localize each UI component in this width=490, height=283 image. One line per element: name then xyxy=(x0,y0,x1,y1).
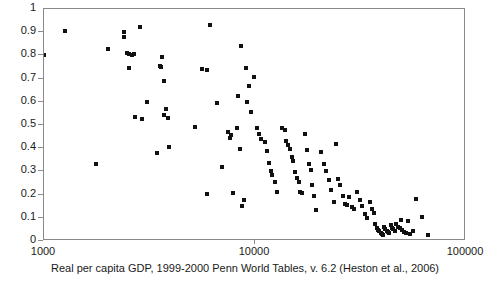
data-point xyxy=(414,197,418,201)
data-point xyxy=(44,53,46,57)
data-point xyxy=(322,162,326,166)
data-point xyxy=(252,75,256,79)
data-point xyxy=(387,231,391,235)
data-point xyxy=(133,115,137,119)
data-point xyxy=(155,151,159,155)
data-point xyxy=(297,180,301,184)
data-point xyxy=(312,194,316,198)
data-point xyxy=(63,29,67,33)
y-tick-label: 0.2 xyxy=(21,188,36,199)
data-point xyxy=(345,203,349,207)
y-tick-label: 0.1 xyxy=(21,211,36,222)
data-point xyxy=(300,191,304,195)
data-point xyxy=(200,67,204,71)
data-point xyxy=(159,65,163,69)
x-axis: 100010000100000 xyxy=(0,242,490,262)
data-point xyxy=(329,188,333,192)
data-point xyxy=(426,233,430,237)
y-tick-label: 0.3 xyxy=(21,164,36,175)
data-point xyxy=(238,147,242,151)
data-point xyxy=(249,110,253,114)
y-tick-label: 0.6 xyxy=(21,95,36,106)
data-point xyxy=(341,194,345,198)
data-point xyxy=(332,200,336,204)
data-point xyxy=(309,168,313,172)
data-point xyxy=(236,94,240,98)
y-axis: 00.10.20.30.40.50.60.70.80.91 xyxy=(0,0,43,248)
scatter-chart-figure: 00.10.20.30.40.50.60.70.80.91 1000100001… xyxy=(0,0,490,283)
y-tick-label: 0.8 xyxy=(21,48,36,59)
plot-frame xyxy=(43,8,465,240)
data-point xyxy=(208,23,212,27)
data-point xyxy=(420,215,424,219)
data-point xyxy=(370,207,374,211)
y-tick-mark xyxy=(38,240,43,241)
data-point xyxy=(132,52,136,56)
data-point xyxy=(275,190,279,194)
data-point xyxy=(240,204,244,208)
data-point xyxy=(399,218,403,222)
data-point xyxy=(270,173,274,177)
data-point xyxy=(122,30,126,34)
data-point xyxy=(215,101,219,105)
data-point xyxy=(160,55,164,59)
y-tick-label: 0.4 xyxy=(21,141,36,152)
data-point xyxy=(283,128,287,132)
y-tick-label: 0.5 xyxy=(21,118,36,129)
data-point xyxy=(273,180,277,184)
data-point xyxy=(239,44,243,48)
x-tick-label: 10000 xyxy=(239,246,270,257)
data-point xyxy=(263,140,267,144)
data-point xyxy=(324,169,328,173)
data-point xyxy=(167,145,171,149)
data-point xyxy=(127,66,131,70)
data-point xyxy=(307,162,311,166)
data-point xyxy=(242,198,246,202)
data-point xyxy=(288,147,292,151)
data-point xyxy=(358,198,362,202)
y-tick-label: 1 xyxy=(30,2,36,13)
data-point xyxy=(257,132,261,136)
data-point xyxy=(231,191,235,195)
data-point xyxy=(205,192,209,196)
data-point xyxy=(406,219,410,223)
data-point xyxy=(255,126,259,130)
data-point xyxy=(247,84,251,88)
data-point xyxy=(122,35,126,39)
plot-area xyxy=(44,9,464,239)
x-tick-mark xyxy=(254,240,255,244)
x-axis-caption: Real per capita GDP, 1999-2000 Penn Worl… xyxy=(0,262,490,275)
data-point xyxy=(166,116,170,120)
data-point xyxy=(267,161,271,165)
data-point xyxy=(229,133,233,137)
data-point xyxy=(355,190,359,194)
data-point xyxy=(381,233,385,237)
data-point xyxy=(314,208,318,212)
data-point xyxy=(352,207,356,211)
data-point xyxy=(106,47,110,51)
data-point xyxy=(310,183,314,187)
data-point xyxy=(145,100,149,104)
data-point xyxy=(235,126,239,130)
data-point xyxy=(393,229,397,233)
data-point xyxy=(193,125,197,129)
data-point xyxy=(360,204,364,208)
data-point xyxy=(244,66,248,70)
data-point xyxy=(245,100,249,104)
y-tick-label: 0.9 xyxy=(21,25,36,36)
data-point xyxy=(411,229,415,233)
data-point xyxy=(365,216,369,220)
data-point xyxy=(138,25,142,29)
data-point xyxy=(372,211,376,215)
data-point xyxy=(319,150,323,154)
y-tick-label: 0.7 xyxy=(21,72,36,83)
x-tick-label: 100000 xyxy=(447,246,484,257)
data-point xyxy=(373,222,377,226)
data-point xyxy=(336,177,340,181)
data-point xyxy=(347,195,351,199)
data-point xyxy=(305,148,309,152)
data-point xyxy=(140,117,144,121)
data-point xyxy=(291,159,295,163)
data-point xyxy=(327,178,331,182)
data-point xyxy=(265,149,269,153)
